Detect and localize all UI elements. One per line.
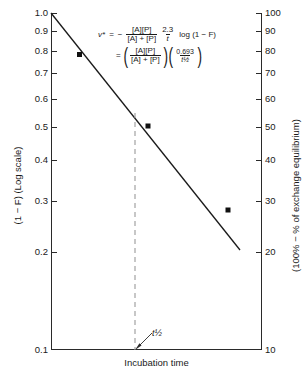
equation-block: v* = − [A][P] [A] + [P] 2.3 t log (1 − F… (98, 26, 258, 65)
equation-line-2: = ( [A][P] [A] + [P] ) ( 0.693 t½ ) (98, 47, 258, 65)
equation-line2-frac1-numerator: [A][P] (135, 47, 157, 55)
equation-frac2-numerator: 2.3 (161, 26, 174, 34)
chart-figure: 1.0 0.9 0.8 0.7 0.6 0.5 0.4 0.3 0.2 0.1 … (0, 0, 308, 372)
data-marker-2 (146, 124, 151, 129)
x-axis-title: Incubation time (51, 357, 262, 368)
equation-equals-2: = (116, 51, 121, 60)
data-marker-3 (226, 208, 231, 213)
equation-log-term: log (1 − F) (179, 30, 216, 39)
data-marker-1 (77, 52, 82, 57)
equation-frac1-numerator: [A][P] (131, 26, 153, 34)
equation-fraction-concentration-2: [A][P] [A] + [P] (130, 47, 161, 65)
equation-line2-frac2-denominator: t½ (180, 55, 190, 63)
y-axis-title-left: (1 − F) (Log scale) (12, 111, 23, 261)
equation-line-1: v* = − [A][P] [A] + [P] 2.3 t log (1 − F… (98, 26, 258, 44)
t-half-label: t½ (152, 328, 162, 338)
equation-line2-frac2-numerator: 0.693 (175, 48, 195, 55)
equation-fraction-concentration-1: [A][P] [A] + [P] (126, 26, 157, 44)
equation-equals-1: = (109, 30, 114, 39)
equation-line2-frac1-denominator: [A] + [P] (130, 55, 161, 64)
equation-velocity-symbol: v* (98, 30, 105, 39)
equation-fraction-halflife: 0.693 t½ (175, 48, 195, 64)
equation-frac1-denominator: [A] + [P] (126, 34, 157, 43)
equation-fraction-rate: 2.3 t (161, 26, 174, 44)
y-axis-title-right: (100% − % of exchange equilibrium) (290, 101, 301, 291)
equation-minus: − (118, 30, 123, 39)
